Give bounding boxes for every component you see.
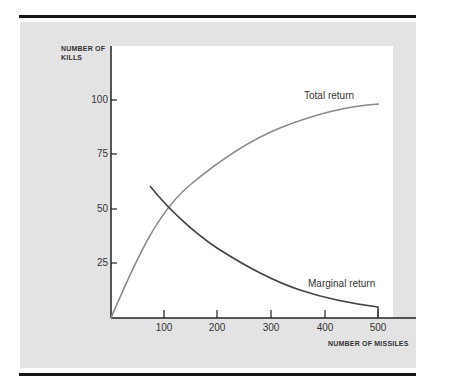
x-axis-label: NUMBER OF MISSILES	[328, 340, 409, 347]
total-return-annotation: Total return	[304, 90, 354, 101]
y-axis-label-line1: NUMBER OF	[61, 44, 105, 53]
y-axis-label: NUMBER OF KILLS	[61, 44, 105, 62]
y-tick-label-75: 75	[84, 148, 108, 159]
y-tick-label-50: 50	[84, 203, 108, 214]
x-tick-label-200: 200	[202, 322, 232, 333]
x-tick-label-400: 400	[310, 322, 340, 333]
x-ticks	[164, 310, 378, 318]
y-axis-label-line2: KILLS	[61, 53, 105, 62]
marginal-return-annotation: Marginal return	[308, 278, 375, 289]
x-tick-label-500: 500	[363, 322, 393, 333]
y-ticks	[111, 100, 117, 263]
x-tick-label-300: 300	[256, 322, 286, 333]
marginal-return-line	[150, 186, 378, 318]
y-tick-label-25: 25	[84, 257, 108, 268]
y-tick-label-100: 100	[84, 94, 108, 105]
bottom-rule	[19, 373, 416, 376]
x-tick-label-100: 100	[149, 322, 179, 333]
